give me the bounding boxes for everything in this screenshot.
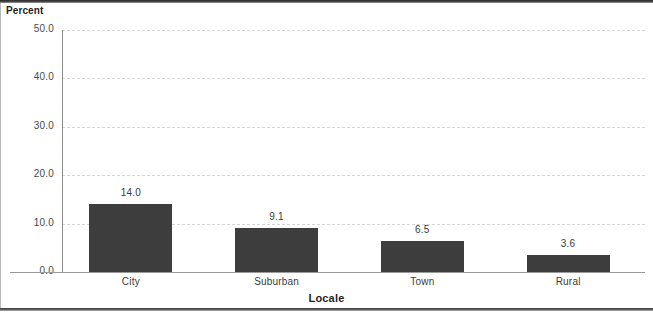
bar-value-label: 14.0	[91, 187, 171, 198]
figure-top-border	[0, 0, 653, 3]
y-axis-title: Percent	[6, 5, 43, 16]
gridline	[62, 30, 645, 31]
bar-rural[interactable]	[527, 255, 610, 272]
x-axis-title: Locale	[0, 292, 653, 304]
chart-figure: Percent 0.010.020.030.040.050.0 14.0City…	[0, 0, 653, 319]
gridline	[62, 175, 645, 176]
bar-city[interactable]	[89, 204, 172, 272]
x-axis-category-label: City	[81, 276, 181, 287]
y-axis-tick-label: 30.0	[6, 120, 54, 131]
y-axis-tick-label: 10.0	[6, 217, 54, 228]
x-axis-category-label: Town	[372, 276, 472, 287]
x-axis-category-label: Suburban	[227, 276, 327, 287]
bar-value-label: 6.5	[382, 224, 462, 235]
bar-suburban[interactable]	[235, 228, 318, 272]
x-axis-line	[10, 272, 645, 273]
y-axis-tick-label: 20.0	[6, 168, 54, 179]
y-axis-line	[62, 30, 63, 272]
x-axis-category-label: Rural	[518, 276, 618, 287]
y-axis-tick-label: 50.0	[6, 23, 54, 34]
y-axis-tick-label: 40.0	[6, 71, 54, 82]
bar-value-label: 9.1	[237, 211, 317, 222]
figure-bottom-border	[0, 308, 653, 311]
gridline	[62, 127, 645, 128]
y-axis-tick-label: 0.0	[6, 265, 54, 276]
figure-left-border	[0, 3, 1, 308]
bar-value-label: 3.6	[528, 238, 608, 249]
gridline	[62, 78, 645, 79]
bar-town[interactable]	[381, 241, 464, 272]
